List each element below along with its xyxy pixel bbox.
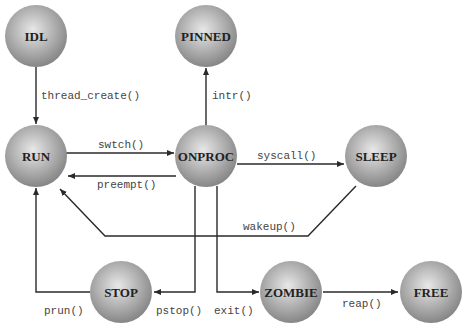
- label-reap: reap(): [342, 298, 382, 310]
- node-idl: IDL: [5, 5, 67, 67]
- label-thread-create: thread_create(): [41, 90, 140, 102]
- node-sleep: SLEEP: [345, 125, 407, 187]
- edge-pstop: [154, 186, 195, 292]
- edge-wakeup: [60, 186, 356, 236]
- node-pinned: PINNED: [175, 5, 237, 67]
- node-label-free: FREE: [414, 285, 449, 300]
- label-intr: intr(): [212, 90, 252, 102]
- node-label-pinned: PINNED: [181, 29, 231, 44]
- label-wakeup: wakeup(): [243, 221, 296, 233]
- label-pstop: pstop(): [156, 305, 202, 317]
- node-zombie: ZOMBIE: [260, 261, 322, 323]
- state-diagram: IDL PINNED RUN ONPROC SLEEP STOP ZOMBIE …: [0, 0, 466, 334]
- node-label-zombie: ZOMBIE: [264, 285, 317, 300]
- label-swtch: swtch(): [98, 139, 144, 151]
- label-preempt: preempt(): [97, 179, 156, 191]
- node-run: RUN: [5, 125, 67, 187]
- node-label-sleep: SLEEP: [355, 149, 396, 164]
- edge-exit: [217, 186, 259, 292]
- node-free: FREE: [400, 261, 462, 323]
- node-onproc: ONPROC: [175, 125, 237, 187]
- label-syscall: syscall(): [257, 150, 316, 162]
- edge-prun: [36, 188, 90, 292]
- node-label-run: RUN: [22, 149, 51, 164]
- node-label-onproc: ONPROC: [178, 149, 234, 164]
- node-label-idl: IDL: [24, 29, 47, 44]
- label-exit: exit(): [214, 305, 254, 317]
- label-prun: prun(): [44, 305, 84, 317]
- node-stop: STOP: [90, 261, 152, 323]
- node-label-stop: STOP: [104, 285, 138, 300]
